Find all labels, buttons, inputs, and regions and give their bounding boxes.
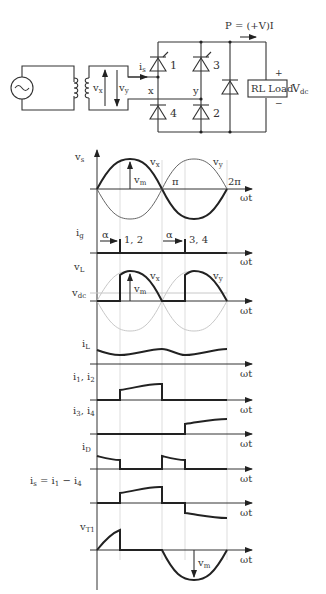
- iD-waveform: [97, 456, 227, 469]
- i3-i4-axis-label: i3, i4: [73, 405, 95, 418]
- omega-t-label: ωt: [240, 507, 252, 518]
- vs-axis-label: vs: [74, 151, 85, 164]
- omega-t-label: ωt: [240, 438, 252, 449]
- vL-axis-label: vL: [73, 261, 85, 274]
- thyristor-1-label: 1: [170, 59, 177, 72]
- ig-axis-label: ig: [76, 227, 84, 240]
- power-label: P = (+V)I: [225, 20, 274, 31]
- iD-axis-label: iD: [82, 441, 91, 454]
- vm-label: vm: [197, 557, 211, 570]
- circuit: vx vy is 1 3 4: [11, 20, 308, 134]
- vm-label: vm: [133, 174, 147, 187]
- omega-t-label: ωt: [240, 404, 252, 415]
- omega-t-label: ωt: [240, 473, 252, 484]
- vx-label: vx: [92, 82, 103, 95]
- diode-4-label: 4: [170, 107, 177, 120]
- minus-sign: −: [275, 98, 283, 108]
- pi-label: π: [172, 176, 179, 187]
- vdc-label: Vdc: [291, 82, 308, 96]
- alpha-label-1: α: [102, 229, 109, 240]
- omega-t-label: ωt: [240, 554, 252, 565]
- thyristor-3-icon: [193, 52, 211, 71]
- pulse-3-4-label: 3, 4: [189, 234, 208, 245]
- vy-label: vy: [118, 82, 129, 95]
- vm-label: vm: [133, 283, 147, 296]
- omega-t-label: ωt: [240, 305, 252, 316]
- thyristor-1-icon: [150, 52, 168, 71]
- vT1-axis-label: vT1: [79, 521, 95, 534]
- iL-axis-label: iL: [82, 338, 90, 351]
- half-controlled-bridge-diagram: vx vy is 1 3 4: [0, 0, 326, 594]
- vy-curve-label: vy: [212, 156, 223, 169]
- two-pi-label: 2π: [228, 176, 241, 187]
- diode-2-label: 2: [213, 107, 220, 120]
- is-current-label: is: [139, 61, 146, 74]
- waveforms: vs vx vy vm π 2π ωt ig α α 1, 2 3, 4 ωt …: [30, 150, 252, 590]
- i1-i2-waveform: [97, 384, 227, 400]
- node-y-label: y: [192, 85, 199, 96]
- i1-i2-axis-label: i1, i2: [73, 371, 95, 384]
- vx-curve-label: vx: [149, 156, 160, 169]
- omega-t-label: ωt: [240, 256, 252, 267]
- ac-source-icon: [11, 66, 74, 110]
- rl-load-label: RL Load: [251, 83, 294, 94]
- is-axis-label: is = i1 − i4: [30, 475, 82, 488]
- thyristor-3-label: 3: [213, 59, 220, 72]
- pulse-1-2-label: 1, 2: [124, 234, 143, 245]
- plus-sign: +: [275, 68, 283, 78]
- node-x-label: x: [148, 85, 154, 96]
- omega-t-label: ωt: [240, 192, 252, 203]
- alpha-label-2: α: [166, 229, 173, 240]
- vdc-axis-label: vdc: [71, 287, 86, 300]
- omega-t-label: ωt: [240, 368, 252, 379]
